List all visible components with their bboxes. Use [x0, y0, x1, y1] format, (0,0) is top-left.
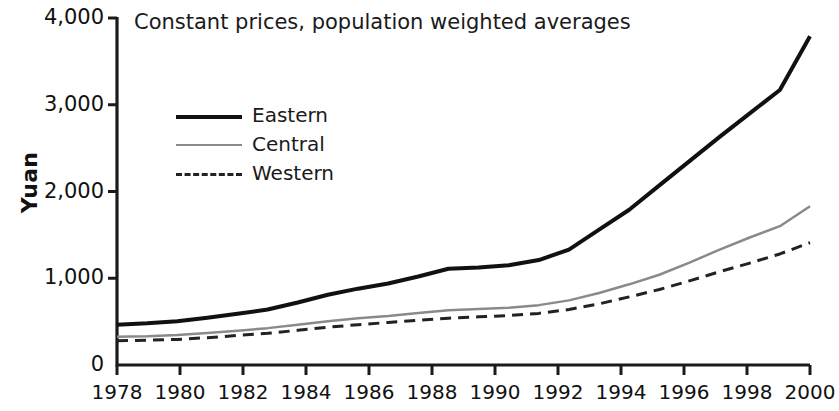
series-line-eastern	[117, 36, 810, 324]
series-line-western	[117, 243, 810, 341]
axis-spine	[117, 17, 810, 365]
